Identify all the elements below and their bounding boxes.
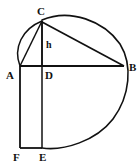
arc-C-to-B-to-E <box>42 15 128 148</box>
vertex-label-C: C <box>37 6 45 17</box>
vertex-label-E: E <box>39 152 46 163</box>
vertex-label-B: B <box>129 62 136 73</box>
segment-CB <box>42 22 124 66</box>
vertex-label-D: D <box>45 70 53 81</box>
segment-group <box>20 21 124 148</box>
vertex-label-A: A <box>6 70 14 81</box>
geometry-canvas <box>0 0 139 166</box>
vertex-label-F: F <box>13 152 20 163</box>
geometry-figure: C A B D F E h <box>0 0 139 166</box>
altitude-label-h: h <box>46 40 52 50</box>
